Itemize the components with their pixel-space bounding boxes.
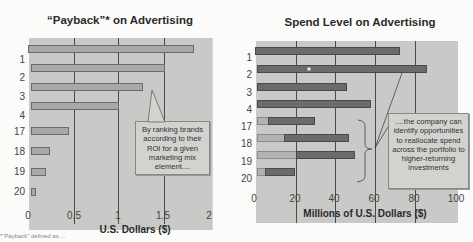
callout-pointer bbox=[148, 90, 165, 122]
brace-icon bbox=[357, 120, 372, 182]
annotation-lines bbox=[0, 0, 473, 242]
connector-line bbox=[375, 73, 402, 148]
marker-dot-icon bbox=[307, 67, 311, 71]
footnote: *“Payback” defined as ... bbox=[0, 233, 65, 239]
